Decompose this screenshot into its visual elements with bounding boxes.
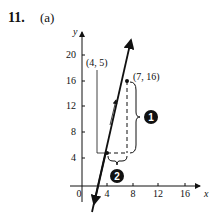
point-label-4-5: (4, 5) [86, 57, 108, 69]
marker-1-label: 1 [148, 112, 154, 123]
marker-2-label: 2 [114, 171, 120, 182]
y-tick-4: 4 [71, 152, 76, 163]
point-7-16 [125, 79, 129, 83]
point-label-7-16: (7, 16) [133, 71, 160, 83]
x-tick-12: 12 [153, 188, 163, 199]
x-axis-label: x [203, 188, 209, 199]
x-tick-16: 16 [180, 188, 190, 199]
graph: 0 4 8 12 16 x 4 8 12 16 20 y (4, 5) (7, … [0, 0, 213, 221]
y-axis-label: y [72, 26, 78, 37]
x-tick-8: 8 [131, 188, 136, 199]
x-tick-4: 4 [105, 188, 110, 199]
x-tick-0: 0 [77, 188, 82, 199]
y-tick-20: 20 [66, 49, 76, 60]
y-tick-16: 16 [66, 75, 76, 86]
y-tick-8: 8 [71, 126, 76, 137]
y-tick-12: 12 [66, 100, 76, 111]
